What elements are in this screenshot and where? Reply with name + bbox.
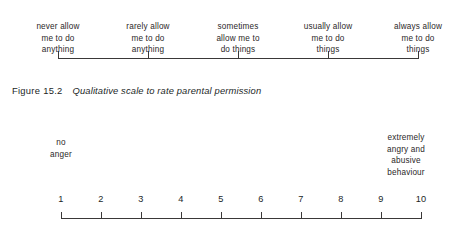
fig2-tick-4 xyxy=(181,212,182,219)
scale-number-4: 4 xyxy=(169,193,193,205)
scale-number-3: 3 xyxy=(129,193,153,205)
anchor-label-no-anger: no anger xyxy=(28,137,94,160)
fig1-tick-2 xyxy=(148,51,149,59)
fig2-tick-1 xyxy=(61,212,62,219)
fig1-label-row: never allow me to do anything rarely all… xyxy=(0,8,461,56)
fig2-tick-5 xyxy=(221,212,222,219)
fig1-tick-4 xyxy=(328,51,329,59)
fig2-tick-6 xyxy=(261,212,262,219)
figure-caption-title: Qualitative scale to rate parental permi… xyxy=(73,85,262,96)
figure-page: never allow me to do anything rarely all… xyxy=(0,0,461,229)
scale-label-always-allow: always allow me to do things xyxy=(366,21,461,56)
fig1-tick-5 xyxy=(418,51,419,59)
figure-caption-number: Figure 15.2 xyxy=(12,85,63,96)
scale-number-9: 9 xyxy=(369,193,393,205)
scale-number-6: 6 xyxy=(249,193,273,205)
fig2-tick-8 xyxy=(341,212,342,219)
anger-rating-scale: no anger extremely angry and abusive beh… xyxy=(0,120,461,229)
fig1-tick-3 xyxy=(238,51,239,59)
scale-number-8: 8 xyxy=(329,193,353,205)
fig2-tick-10 xyxy=(421,212,422,219)
qualitative-permission-scale: never allow me to do anything rarely all… xyxy=(0,0,461,80)
anchor-label-extremely-angry: extremely angry and abusive behaviour xyxy=(369,132,443,178)
scale-number-1: 1 xyxy=(49,193,73,205)
fig2-axis-line xyxy=(61,218,421,219)
scale-number-5: 5 xyxy=(209,193,233,205)
fig2-tick-2 xyxy=(101,212,102,219)
fig2-tick-7 xyxy=(301,212,302,219)
fig2-tick-3 xyxy=(141,212,142,219)
fig1-tick-1 xyxy=(58,51,59,59)
fig2-number-row: 12345678910 xyxy=(0,193,461,206)
fig1-axis-line xyxy=(58,58,418,59)
figure-caption: Figure 15.2Qualitative scale to rate par… xyxy=(12,84,261,97)
scale-number-2: 2 xyxy=(89,193,113,205)
scale-number-10: 10 xyxy=(409,193,433,205)
fig2-tick-9 xyxy=(381,212,382,219)
scale-number-7: 7 xyxy=(289,193,313,205)
